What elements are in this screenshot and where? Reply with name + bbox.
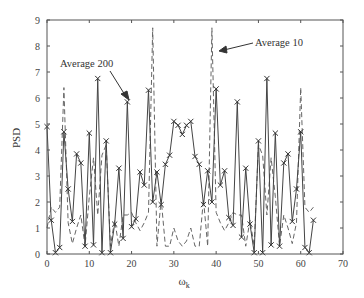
y-tick-label: 7 (35, 67, 40, 78)
x-tick-label: 10 (84, 258, 94, 269)
y-tick-label: 5 (35, 119, 40, 130)
x-axis-label: ωk (178, 275, 189, 290)
series-average-200 (44, 76, 316, 255)
annotation-average-200: Average 200 (60, 58, 113, 69)
x-tick-label: 50 (253, 258, 263, 269)
x-tick-label: 20 (127, 258, 137, 269)
x-tick-label: 40 (211, 258, 221, 269)
y-tick-label: 9 (35, 15, 40, 26)
y-tick-label: 4 (35, 145, 40, 156)
x-tick-label: 60 (296, 258, 306, 269)
x-tick-label: 70 (338, 258, 348, 269)
y-tick-label: 1 (35, 223, 40, 234)
x-tick-label: 30 (169, 258, 179, 269)
annotation-average-10: Average 10 (255, 37, 303, 48)
y-tick-label: 6 (35, 93, 40, 104)
y-tick-label: 0 (35, 249, 40, 260)
annotation-arrows (110, 43, 253, 100)
y-axis-label: PSD (10, 128, 22, 148)
y-tick-label: 3 (35, 171, 40, 182)
x-tick-label: 0 (45, 258, 50, 269)
y-tick-label: 2 (35, 197, 40, 208)
y-tick-label: 8 (35, 41, 40, 52)
psd-chart: 0102030405060700123456789 PSD ωk Average… (0, 0, 364, 298)
